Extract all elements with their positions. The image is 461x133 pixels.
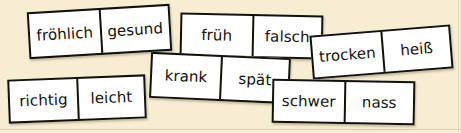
domino-tile-schwer-nass[interactable]: schwer nass: [272, 79, 416, 125]
domino-half-krank: krank: [151, 54, 221, 99]
domino-tile-krank-spaet[interactable]: krank spät: [149, 52, 291, 104]
domino-half-frueh: früh: [182, 15, 252, 56]
domino-half-heiss: heiß: [380, 27, 451, 72]
domino-half-nass: nass: [343, 82, 413, 123]
domino-half-schwer: schwer: [274, 81, 344, 122]
domino-half-leicht: leicht: [76, 76, 144, 119]
domino-half-richtig: richtig: [9, 79, 77, 122]
domino-tile-frueh-falsch[interactable]: früh falsch: [180, 13, 324, 60]
domino-worksheet: fröhlich gesund früh falsch trocken heiß…: [0, 0, 461, 133]
domino-half-gesund: gesund: [98, 6, 170, 53]
page-right-rule: [458, 0, 459, 133]
domino-half-trocken: trocken: [312, 32, 383, 77]
domino-tile-richtig-leicht[interactable]: richtig leicht: [7, 74, 147, 123]
page-bottom-rule: [0, 129, 461, 130]
domino-half-froehlich: fröhlich: [29, 10, 101, 57]
domino-tile-trocken-heiss[interactable]: trocken heiß: [309, 24, 453, 79]
